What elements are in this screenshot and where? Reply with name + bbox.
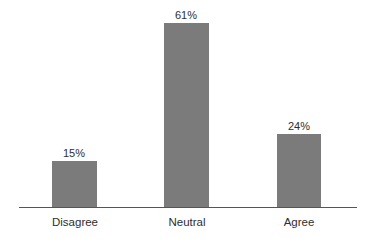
value-label-disagree: 15%: [44, 147, 104, 159]
bar-disagree: [52, 161, 97, 207]
category-label-agree: Agree: [259, 216, 339, 229]
bar-neutral: [164, 23, 209, 207]
x-axis-line: [19, 207, 357, 208]
bar-chart: 15% 61% 24% Disagree Neutral Agree: [0, 0, 372, 239]
category-label-disagree: Disagree: [35, 216, 115, 229]
category-label-neutral: Neutral: [147, 216, 227, 229]
value-label-agree: 24%: [269, 120, 329, 132]
value-label-neutral: 61%: [156, 9, 216, 21]
bar-agree: [277, 134, 321, 207]
